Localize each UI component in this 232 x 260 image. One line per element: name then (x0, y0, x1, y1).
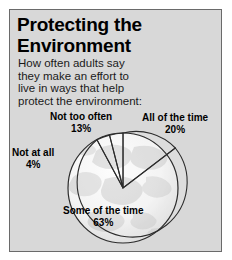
pie-label-not-at-all-value: 4% (12, 159, 54, 171)
pie-label-some-of-the-time-name: Some of the time (63, 205, 144, 216)
pie-label-not-too-often: Not too often 13% (50, 111, 112, 134)
pie-label-not-too-often-value: 13% (50, 123, 112, 135)
pie-chart: Not too often 13% All of the time 20% No… (10, 10, 222, 252)
pie-label-some-of-the-time: Some of the time 63% (63, 205, 144, 228)
infographic-panel: Protecting the Environment How often adu… (9, 9, 222, 252)
pie-label-all-of-the-time-value: 20% (142, 124, 208, 136)
pie-label-all-of-the-time: All of the time 20% (142, 112, 208, 135)
pie-label-not-at-all: Not at all 4% (12, 147, 54, 170)
pie-label-not-too-often-name: Not too often (50, 111, 112, 122)
pie-label-some-of-the-time-value: 63% (63, 217, 144, 229)
pie-label-not-at-all-name: Not at all (12, 147, 54, 158)
pie-label-all-of-the-time-name: All of the time (142, 112, 208, 123)
